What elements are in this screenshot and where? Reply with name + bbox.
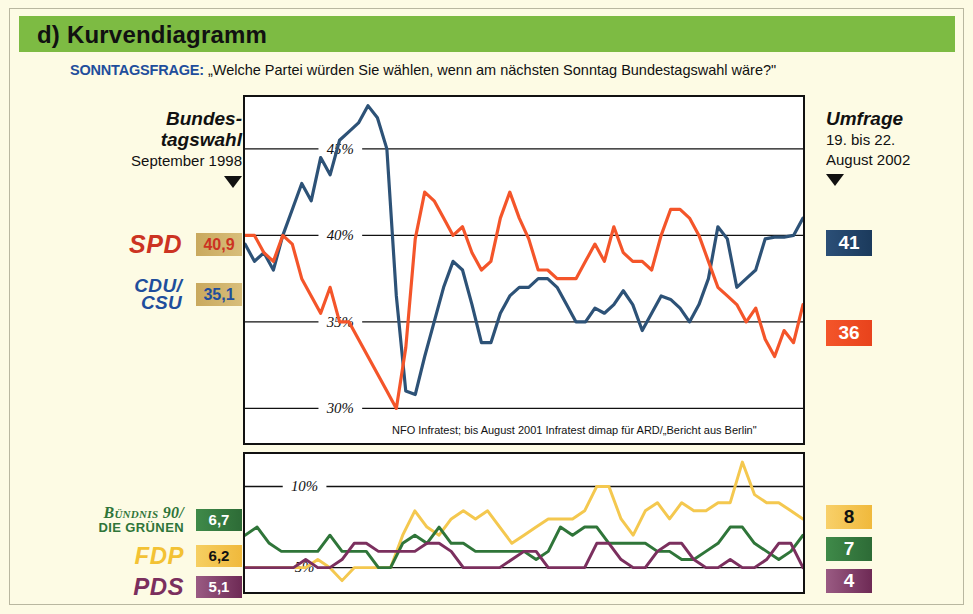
party-logo-fdp: FDP	[135, 542, 185, 570]
series-line-b-ndnis-90-die-gr-nen	[245, 527, 803, 568]
left-header-line1: Bundes-	[92, 108, 242, 129]
chart-panel-main: 30%35%40%45%	[243, 95, 805, 445]
infographic-page: d) Kurvendiagramm SONNTAGSFRAGE: „Welche…	[0, 0, 973, 614]
source-note: NFO Infratest; bis August 2001 Infratest…	[390, 424, 759, 436]
page-title: d) Kurvendiagramm	[37, 21, 267, 49]
value-box-spd-1998: 40,9	[196, 233, 242, 256]
result-box-fdp-2002: 8	[826, 505, 872, 529]
party-logo-gruene: Bündnis 90/ DIE GRÜNEN	[98, 505, 184, 535]
gruene-logo-line1: Bündnis 90/	[98, 505, 184, 520]
left-header-line3: September 1998	[92, 151, 242, 171]
right-header-line2: 19. bis 22.	[826, 130, 961, 149]
series-line-fdp	[245, 462, 803, 581]
y-axis-tick-40%: 40%	[327, 227, 354, 243]
chart-svg-main: 30%35%40%45%	[245, 97, 803, 443]
subtitle-question: „Welche Partei würden Sie wählen, wenn a…	[208, 62, 776, 78]
result-box-spd-2002: 41	[826, 230, 872, 256]
party-row-gruene-1998: Bündnis 90/ DIE GRÜNEN 6,7	[52, 505, 242, 535]
chart-panel-small-parties: 5%10%	[243, 452, 805, 594]
left-header-line2: tagswahl	[92, 129, 242, 150]
party-logo-pds: PDS	[133, 573, 184, 601]
party-row-pds-1998: PDS 5,1	[52, 573, 242, 601]
series-line-pds	[245, 543, 803, 567]
value-box-fdp-1998: 6,2	[196, 545, 242, 567]
y-axis-tick-30%: 30%	[326, 400, 354, 416]
cdu-logo-line2: CSU	[134, 294, 182, 311]
right-header-line3: August 2002	[826, 150, 961, 169]
subtitle-lead: SONNTAGSFRAGE:	[70, 62, 204, 78]
series-line-cdu-csu	[245, 192, 803, 408]
right-header-line1: Umfrage	[826, 108, 961, 129]
result-box-pds-2002: 4	[826, 569, 872, 593]
left-header-block: Bundes- tagswahl September 1998	[92, 108, 242, 188]
party-logo-spd: SPD	[129, 230, 182, 259]
down-triangle-icon	[224, 176, 242, 188]
result-box-cdu-2002: 36	[826, 320, 872, 346]
party-row-spd-1998: SPD 40,9	[92, 230, 242, 259]
value-box-gruene-1998: 6,7	[196, 509, 242, 531]
result-box-gruene-2002: 7	[826, 537, 872, 561]
subtitle: SONNTAGSFRAGE: „Welche Partei würden Sie…	[70, 62, 776, 78]
gruene-logo-line2: DIE GRÜNEN	[98, 520, 184, 535]
down-triangle-icon-right	[826, 174, 844, 186]
chart-svg-small: 5%10%	[245, 454, 803, 592]
party-row-fdp-1998: FDP 6,2	[52, 542, 242, 570]
value-box-pds-1998: 5,1	[196, 576, 242, 598]
right-header-block: Umfrage 19. bis 22. August 2002	[826, 108, 961, 186]
party-logo-cdu-csu: CDU/ CSU	[134, 277, 182, 311]
party-row-cdu-1998: CDU/ CSU 35,1	[92, 277, 242, 311]
spd-logo-text: SPD	[129, 230, 182, 259]
y-axis-tick-10%: 10%	[291, 478, 318, 494]
value-box-cdu-1998: 35,1	[196, 283, 242, 306]
